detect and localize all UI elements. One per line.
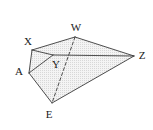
vertex-label-z: Z bbox=[139, 50, 146, 61]
vertex-label-x: X bbox=[24, 36, 32, 47]
vertex-label-a: A bbox=[15, 66, 23, 77]
face-ayze bbox=[29, 55, 134, 103]
geometry-figure: W X A Y Z E bbox=[0, 0, 153, 130]
vertex-label-e: E bbox=[46, 109, 53, 120]
vertex-label-y: Y bbox=[52, 59, 60, 70]
vertex-label-w: W bbox=[71, 22, 81, 33]
